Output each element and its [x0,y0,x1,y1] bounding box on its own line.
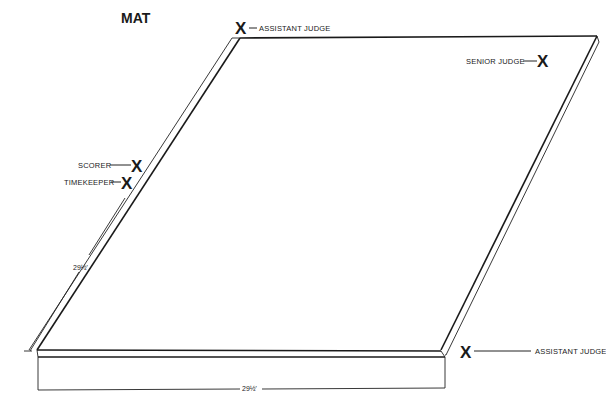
official-senior-judge: SENIOR JUDGE X [466,52,549,71]
mat [29,36,599,357]
diagram-title: MAT [121,10,151,26]
front-dimension-label: 29½' [242,385,257,392]
front-dimension: 29½' [38,357,445,392]
official-label: SENIOR JUDGE [466,57,525,66]
official-label: SCORER [78,161,112,170]
position-x-icon: X [537,52,549,71]
official-label: ASSISTANT JUDGE [259,24,331,33]
mat-diagram: MAT 29½' 29½' X [0,0,606,414]
side-dimension-label: 29½' [73,264,88,271]
official-assistant-judge-bottom: X ASSISTANT JUDGE [460,343,606,362]
official-timekeeper: TIMEKEEPER X [64,174,133,193]
side-dimension: 29½' [24,198,125,351]
position-x-icon: X [121,174,133,193]
position-x-icon: X [235,19,247,38]
official-scorer: SCORER X [78,157,143,176]
official-label: TIMEKEEPER [64,178,115,187]
official-label: ASSISTANT JUDGE [535,347,606,356]
position-x-icon: X [131,157,143,176]
official-assistant-judge-top: X ASSISTANT JUDGE [235,19,331,38]
position-x-icon: X [460,343,472,362]
